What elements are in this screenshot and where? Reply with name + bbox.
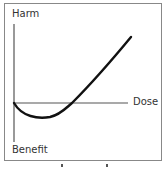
caption-fragment (61, 164, 63, 167)
dose-label: Dose (133, 97, 158, 107)
caption-fragment (106, 164, 108, 167)
benefit-label: Benefit (12, 145, 48, 155)
harm-label: Harm (12, 9, 39, 19)
response-curve (14, 37, 131, 118)
